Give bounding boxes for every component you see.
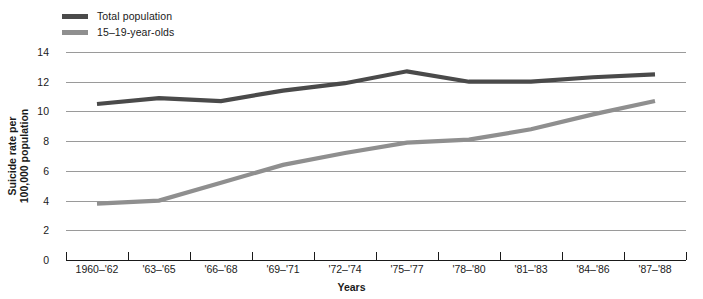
y-tick-label: 4 bbox=[43, 195, 49, 206]
plot-area bbox=[66, 52, 686, 260]
x-axis-tick bbox=[624, 252, 625, 260]
line-chart: Total population 15–19-year-olds Suicide… bbox=[0, 0, 703, 299]
series-line-total-population bbox=[97, 71, 655, 104]
x-tick-label: '75–'77 bbox=[390, 263, 423, 276]
x-tick-label: '63–'65 bbox=[142, 263, 175, 276]
y-tick-label: 12 bbox=[37, 76, 49, 87]
series-line-youth bbox=[97, 101, 655, 204]
x-axis-tick bbox=[314, 252, 315, 260]
x-axis-title: Years bbox=[0, 281, 703, 293]
x-axis-tick bbox=[128, 252, 129, 260]
x-axis-tick-labels: 1960–'62'63–'65'66–'68'69–'71'72–'74'75–… bbox=[66, 263, 686, 277]
legend-item-total-population: Total population bbox=[62, 10, 174, 23]
x-axis-ticks bbox=[66, 252, 686, 260]
y-axis-tick-labels: 02468101214 bbox=[0, 52, 56, 260]
x-axis-tick bbox=[562, 252, 563, 260]
x-tick-label: '81–'83 bbox=[514, 263, 547, 276]
x-axis-tick bbox=[438, 252, 439, 260]
y-tick-label: 2 bbox=[43, 225, 49, 236]
x-axis-end-cap bbox=[686, 252, 687, 260]
x-tick-label: '78–'80 bbox=[452, 263, 485, 276]
x-tick-label: '84–'86 bbox=[576, 263, 609, 276]
y-tick-label: 14 bbox=[37, 47, 49, 58]
y-tick-label: 6 bbox=[43, 165, 49, 176]
x-axis-end-cap bbox=[66, 252, 67, 260]
series-layer bbox=[66, 52, 686, 260]
chart-legend: Total population 15–19-year-olds bbox=[62, 10, 174, 39]
x-axis-tick bbox=[376, 252, 377, 260]
legend-swatch-total-population bbox=[62, 14, 88, 19]
x-tick-label: '66–'68 bbox=[204, 263, 237, 276]
legend-swatch-youth bbox=[62, 30, 88, 35]
legend-label-youth: 15–19-year-olds bbox=[97, 27, 174, 38]
x-axis-tick bbox=[252, 252, 253, 260]
x-axis-tick bbox=[500, 252, 501, 260]
legend-item-youth: 15–19-year-olds bbox=[62, 26, 174, 39]
y-tick-label: 8 bbox=[43, 136, 49, 147]
y-tick-label: 10 bbox=[37, 106, 49, 117]
x-tick-label: '69–'71 bbox=[266, 263, 299, 276]
x-tick-label: '87–'88 bbox=[638, 263, 671, 276]
x-tick-label: 1960–'62 bbox=[76, 263, 119, 276]
x-axis-line bbox=[66, 260, 686, 261]
x-axis-tick bbox=[190, 252, 191, 260]
x-tick-label: '72–'74 bbox=[328, 263, 361, 276]
y-tick-label: 0 bbox=[43, 255, 49, 266]
legend-label-total-population: Total population bbox=[97, 11, 172, 22]
